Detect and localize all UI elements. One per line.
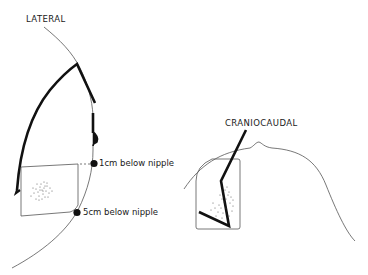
lateral-field-box xyxy=(21,164,78,216)
lateral-view-title: LATERAL xyxy=(26,15,66,24)
marker-1cm-label: 1cm below nipple xyxy=(99,159,174,168)
craniocaudal-view-title: CRANIOCAUDAL xyxy=(225,119,298,128)
lateral-wire-hook xyxy=(16,190,20,193)
marker-5cm-label: 5cm below nipple xyxy=(83,208,158,217)
craniocaudal-wire xyxy=(199,130,246,226)
craniocaudal-field-box xyxy=(196,159,240,229)
mammography-views-diagram xyxy=(0,0,368,275)
nipple-icon xyxy=(93,132,98,146)
lateral-view xyxy=(12,27,98,268)
lesion-stipple-lateral xyxy=(31,182,53,201)
marker-1cm-dot xyxy=(90,160,97,167)
lateral-wire-upper xyxy=(17,64,95,190)
marker-5cm-dot xyxy=(73,209,80,216)
craniocaudal-skin-contour xyxy=(184,142,355,241)
craniocaudal-view xyxy=(184,130,355,241)
